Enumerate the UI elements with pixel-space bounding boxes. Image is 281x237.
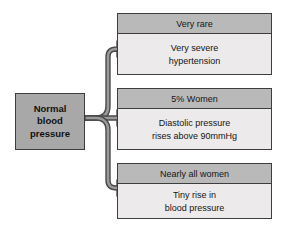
outcome-box-body: Tiny rise in blood pressure	[118, 184, 271, 219]
outcome-box-body: Very severe hypertension	[118, 34, 271, 75]
outcome-box-body: Diastolic pressure rises above 90mmHg	[118, 109, 271, 150]
source-node-label: Normal blood pressure	[30, 103, 70, 141]
diagram-canvas: Normal blood pressure Very rare Very sev…	[0, 0, 281, 237]
source-node-normal-blood-pressure: Normal blood pressure	[15, 93, 85, 150]
outcome-box-nearly-all-women: Nearly all women Tiny rise in blood pres…	[117, 163, 272, 219]
outcome-box-5-percent-women: 5% Women Diastolic pressure rises above …	[117, 88, 272, 150]
outcome-box-header: Nearly all women	[118, 164, 271, 184]
outcome-box-header: Very rare	[118, 14, 271, 34]
outcome-box-header: 5% Women	[118, 89, 271, 109]
outcome-box-very-rare: Very rare Very severe hypertension	[117, 13, 272, 75]
